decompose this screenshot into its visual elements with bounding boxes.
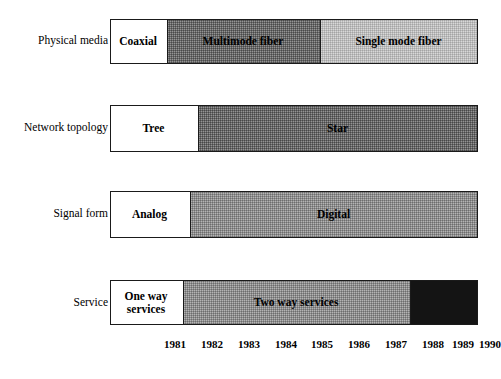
segment-divider [410, 281, 412, 324]
segment-label: Single mode fiber [355, 35, 441, 48]
row-label-3: Service [74, 297, 108, 309]
segment: Star [198, 106, 478, 151]
year-tick-label: 1985 [311, 338, 333, 350]
row-bar-0: CoaxialMultimode fiberSingle mode fiber [110, 19, 478, 64]
year-tick-label: 1987 [385, 338, 407, 350]
year-tick-label: 1984 [275, 338, 297, 350]
segment: Single mode fiber [320, 20, 478, 63]
segment-divider [167, 20, 169, 63]
segment-label: Two way services [254, 296, 339, 309]
year-tick-label: 1989 [452, 338, 474, 350]
segment-label: One way services [124, 290, 167, 316]
segment: Digital [190, 192, 478, 237]
segment: One way services [110, 281, 183, 324]
row-label-2: Signal form [53, 208, 108, 220]
year-tick-label: 1982 [201, 338, 223, 350]
row-bar-3: One way servicesTwo way services [110, 280, 478, 325]
segment-divider [183, 281, 185, 324]
segment-label: Analog [132, 208, 167, 221]
segment-label: Digital [317, 208, 350, 221]
year-axis: 1981198219831984198519861987198819891990 [0, 338, 496, 356]
row-bar-1: TreeStar [110, 105, 478, 152]
segment: Multimode fiber [167, 20, 320, 63]
segment: Two way services [183, 281, 410, 324]
segment: Coaxial [110, 20, 167, 63]
row-label-1: Network topology [24, 122, 108, 134]
year-tick-label: 1990 [479, 338, 501, 350]
segment-label: Coaxial [119, 35, 157, 48]
year-tick-label: 1981 [164, 338, 186, 350]
segment: Tree [110, 106, 198, 151]
segment-divider [320, 20, 322, 63]
segment [410, 281, 478, 324]
year-tick-label: 1988 [422, 338, 444, 350]
segment-divider [190, 192, 192, 237]
segment-divider [198, 106, 200, 151]
year-tick-label: 1983 [238, 338, 260, 350]
row-label-0: Physical media [38, 35, 108, 47]
segment: Analog [110, 192, 190, 237]
segment-label: Star [327, 122, 348, 135]
segment-label: Tree [143, 122, 165, 135]
year-tick-label: 1986 [348, 338, 370, 350]
segment-label: Multimode fiber [203, 35, 284, 48]
row-bar-2: AnalogDigital [110, 191, 478, 238]
